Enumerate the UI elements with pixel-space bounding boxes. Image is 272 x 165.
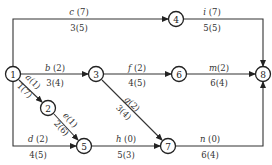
label-b: b (2) 3(4): [45, 63, 65, 88]
svg-text:7: 7: [165, 142, 171, 152]
svg-text:4(5): 4(5): [29, 150, 46, 160]
svg-text:3(4): 3(4): [46, 78, 63, 88]
svg-text:n (0): n (0): [200, 134, 220, 144]
label-c: c (7) 3(5): [69, 7, 89, 33]
svg-text:8: 8: [260, 70, 266, 80]
node-3: 3: [89, 67, 104, 82]
label-g: g(2) 3(4): [114, 94, 142, 122]
svg-text:6: 6: [176, 70, 182, 80]
label-f: f (2) 4(5): [127, 63, 146, 88]
edge-i: [184, 19, 263, 66]
label-i: i (7) 5(5): [203, 7, 220, 33]
network-diagram: c (7) 3(5) i (7) 5(5) b (2) 3(4) f (2) 4…: [0, 0, 272, 165]
svg-text:3(5): 3(5): [70, 23, 87, 33]
svg-text:2: 2: [45, 104, 51, 114]
svg-text:4: 4: [173, 15, 179, 25]
svg-text:i (7): i (7): [203, 7, 220, 17]
label-d: d (2) 4(5): [28, 134, 48, 160]
node-4: 4: [169, 12, 184, 27]
node-7: 7: [161, 139, 176, 154]
svg-text:h (0): h (0): [116, 134, 136, 144]
label-h: h (0) 5(3): [116, 134, 136, 160]
svg-text:f (2): f (2): [127, 63, 146, 73]
svg-text:6(4): 6(4): [210, 78, 227, 88]
svg-text:5(5): 5(5): [203, 23, 220, 33]
svg-text:5: 5: [81, 142, 87, 152]
node-5: 5: [77, 139, 92, 154]
svg-text:b (2): b (2): [45, 63, 65, 73]
svg-text:m(2): m(2): [209, 63, 229, 73]
label-m: m(2) 6(4): [209, 63, 229, 88]
svg-text:4(5): 4(5): [128, 78, 145, 88]
svg-text:6(4): 6(4): [201, 150, 218, 160]
svg-text:1: 1: [10, 70, 16, 80]
label-n: n (0) 6(4): [200, 134, 220, 160]
node-8: 8: [256, 67, 271, 82]
label-e: e(1) 2(6): [52, 110, 80, 138]
svg-text:c (7): c (7): [69, 7, 89, 17]
edge-c: [13, 19, 168, 67]
node-2: 2: [41, 101, 56, 116]
svg-text:5(3): 5(3): [117, 150, 134, 160]
svg-text:3: 3: [93, 70, 99, 80]
node-6: 6: [172, 67, 187, 82]
node-1: 1: [6, 67, 21, 82]
svg-text:d (2): d (2): [28, 134, 48, 144]
